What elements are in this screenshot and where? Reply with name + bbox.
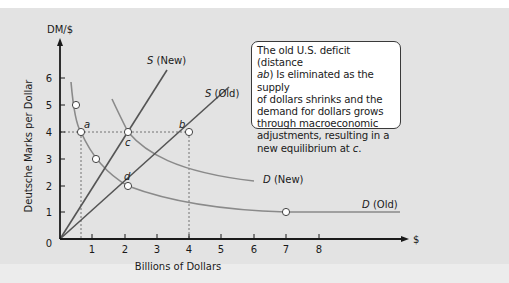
bottom-band (0, 264, 509, 283)
annotation-text: . (358, 143, 361, 154)
chart-figure: 1 2 3 4 5 6 0 1 2 3 4 5 6 7 8 DM/$ $ Bil… (0, 0, 509, 283)
x-tick-label: 3 (154, 244, 160, 255)
point-a-label: a (84, 119, 90, 130)
point-d-label: d (124, 171, 131, 182)
y-tick-label: 1 (46, 207, 52, 218)
annotation-line: new equilibrium at c. (257, 143, 395, 155)
x-tick-label: 6 (251, 244, 257, 255)
demand-old-label: D (Old) (362, 199, 398, 210)
annotation-line: adjustments, resulting in a (257, 130, 395, 142)
y-tick-label: 5 (46, 100, 52, 111)
y-tick-label: 4 (46, 127, 52, 138)
x-tick-label: 2 (122, 244, 128, 255)
x-tick-label: 8 (316, 244, 322, 255)
x-tick-label: 4 (186, 244, 192, 255)
annotation-line: The old U.S. deficit (distance (257, 45, 395, 69)
y-axis-title: Deutsche Marks per Dollar (23, 79, 34, 213)
demand-new-label: D (New) (263, 174, 304, 185)
origin-label: 0 (46, 238, 52, 249)
demand-old-suffix: (Old) (370, 199, 398, 210)
y-tick-label: 6 (46, 73, 52, 84)
marker-point (282, 208, 289, 215)
x-axis-unit: $ (413, 234, 419, 245)
demand-new-suffix: (New) (271, 174, 304, 185)
marker-point-b (185, 128, 192, 135)
annotation-text: ) Is eliminated as the supply (257, 69, 374, 92)
annotation-text: new equilibrium at (257, 143, 353, 154)
x-tick-label: 1 (89, 244, 95, 255)
supply-old-label: S (Old) (205, 88, 239, 99)
y-tick-label: 2 (46, 181, 52, 192)
annotation-italic: ab (257, 69, 269, 80)
supply-new-label: S (New) (147, 55, 186, 66)
annotation-box: The old U.S. deficit (distance ab) Is el… (251, 41, 401, 129)
supply-old-suffix: (Old) (211, 88, 239, 99)
marker-point-d (124, 182, 131, 189)
point-b-label: b (179, 119, 185, 130)
marker-point-c (124, 128, 131, 135)
x-tick-label: 5 (218, 244, 224, 255)
annotation-line: through macroeconomic (257, 118, 395, 130)
x-axis-title: Billions of Dollars (135, 261, 221, 272)
annotation-line: demand for dollars grows (257, 106, 395, 118)
point-c-label: c (125, 137, 131, 148)
annotation-line: of dollars shrinks and the (257, 94, 395, 106)
x-tick-label: 7 (283, 244, 289, 255)
y-axis-unit: DM/$ (47, 24, 73, 35)
annotation-line: ab) Is eliminated as the supply (257, 69, 395, 93)
marker-point (72, 101, 79, 108)
y-tick-label: 3 (46, 154, 52, 165)
marker-point (92, 155, 99, 162)
supply-new-suffix: (New) (153, 55, 186, 66)
marker-point-a (77, 128, 84, 135)
